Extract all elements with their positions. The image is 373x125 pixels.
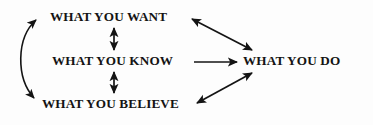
node-label-do: WHAT YOU DO bbox=[243, 54, 340, 67]
node-label-know: WHAT YOU KNOW bbox=[52, 54, 173, 67]
node-label-believe: WHAT YOU BELIEVE bbox=[42, 97, 179, 110]
node-label-want: WHAT YOU WANT bbox=[50, 10, 167, 23]
concept-diagram: WHAT YOU WANT WHAT YOU KNOW WHAT YOU BEL… bbox=[0, 0, 373, 125]
edge-believe-do bbox=[197, 73, 252, 103]
edge-want-believe bbox=[21, 20, 36, 98]
edge-want-do bbox=[192, 19, 252, 50]
